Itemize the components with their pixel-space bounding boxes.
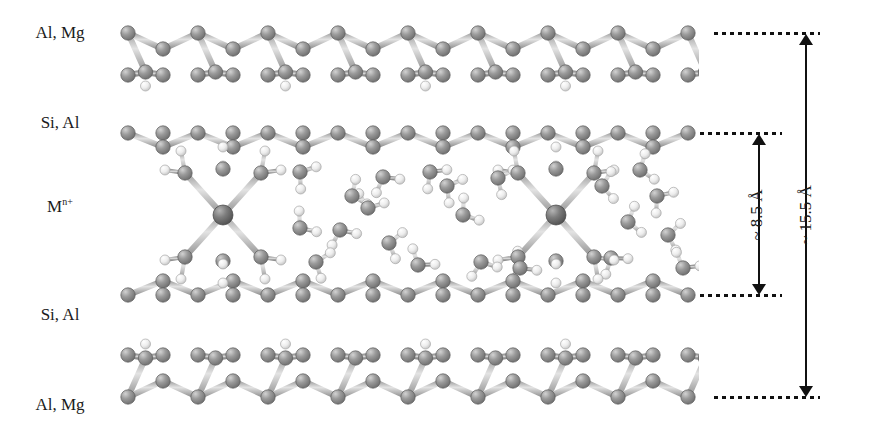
basal-dimension-label: ~ 15.5 Å [796,185,816,245]
interlayer-arrow-bottom [752,284,766,295]
figure-canvas: Al, Mg Si, Al Mn+ Si, Al Al, Mg ~ 8.5 Å … [0,0,869,431]
interlayer-dimension-label: ~ 8.5 Å [747,189,767,240]
cation-charge: n+ [62,196,73,207]
basal-arrow-bottom [799,386,813,397]
molecular-model [0,0,869,431]
guide-line-bottom-tetrahedral [698,294,782,297]
label-bottom-tetrahedral: Si, Al [0,306,120,323]
guide-line-top-tetrahedral [698,132,782,135]
label-bottom-octahedral: Al, Mg [0,396,120,413]
label-top-tetrahedral: Si, Al [0,114,120,131]
label-interlayer-cation: Mn+ [0,198,120,215]
label-top-octahedral: Al, Mg [0,24,120,41]
cation-symbol: M [47,197,62,216]
